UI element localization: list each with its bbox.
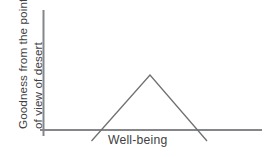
y-axis-label-line-1: Goodness from the point xyxy=(16,0,29,129)
desert-wellbeing-figure: Goodness from the point of view of deser… xyxy=(0,0,272,158)
desert-value-curve xyxy=(92,75,208,141)
y-axis-label: Goodness from the point of view of deser… xyxy=(0,0,40,158)
y-axis-label-line-2: of view of desert xyxy=(31,42,44,129)
x-axis-label: Well-being xyxy=(108,133,167,147)
